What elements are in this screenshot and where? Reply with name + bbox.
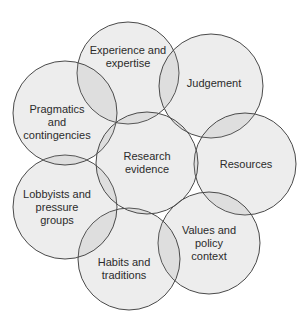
label-lobbyists: Lobbyists and pressure groups [23, 188, 91, 227]
label-line: Experience and [90, 44, 166, 57]
label-line: Pragmatics [23, 103, 90, 116]
label-line: contingencies [23, 129, 90, 142]
label-line: expertise [90, 57, 166, 70]
label-line: Habits and [98, 256, 151, 269]
label-line: Research [123, 150, 170, 163]
label-pragmatics: Pragmatics and contingencies [23, 103, 90, 142]
label-values: Values and policy context [182, 224, 236, 263]
label-line: policy [182, 237, 236, 250]
label-line: evidence [123, 163, 170, 176]
label-judgement: Judgement [187, 77, 241, 90]
label-line: Values and [182, 224, 236, 237]
label-line: Judgement [187, 77, 241, 90]
label-line: groups [23, 214, 91, 227]
label-experience: Experience and expertise [90, 44, 166, 70]
label-habits: Habits and traditions [98, 256, 151, 282]
label-resources: Resources [220, 158, 273, 171]
label-line: traditions [98, 269, 151, 282]
label-line: Lobbyists and [23, 188, 91, 201]
label-line: pressure [23, 201, 91, 214]
label-line: Resources [220, 158, 273, 171]
label-research-evidence: Research evidence [123, 150, 170, 176]
label-line: and [23, 116, 90, 129]
label-line: context [182, 250, 236, 263]
